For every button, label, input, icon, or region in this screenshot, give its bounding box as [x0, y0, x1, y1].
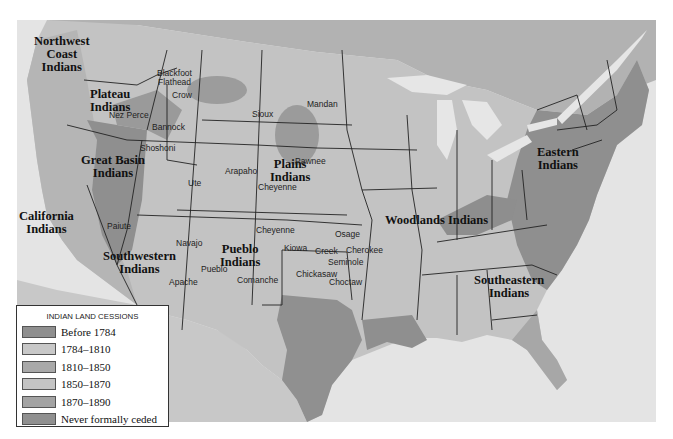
region-label-great-basin: Great BasinIndians — [81, 154, 145, 180]
region-label-southeastern: SoutheasternIndians — [474, 274, 544, 300]
legend-label: 1850–1870 — [61, 378, 111, 390]
tribe-label-seminole: Seminole — [328, 257, 363, 267]
legend-swatch — [22, 343, 56, 355]
legend-label: Never formally ceded — [61, 413, 157, 425]
legend-label: 1870–1890 — [61, 396, 111, 408]
tribe-label-pueblo: Pueblo — [201, 264, 227, 274]
legend-swatch — [22, 413, 56, 425]
region-label-southwestern: SouthwesternIndians — [103, 250, 176, 276]
tribe-label-cheyenne-south: Cheyenne — [256, 225, 295, 235]
legend-label: Before 1784 — [61, 326, 116, 338]
legend-label: 1784–1810 — [61, 343, 111, 355]
tribe-label-kiowa: Kiowa — [284, 243, 307, 253]
region-label-woodlands: Woodlands Indians — [385, 214, 488, 227]
legend-title: INDIAN LAND CESSIONS — [17, 312, 168, 321]
legend: INDIAN LAND CESSIONS Before 1784 1784–18… — [16, 305, 169, 427]
tribe-label-osage: Osage — [335, 229, 360, 239]
legend-label: 1810–1850 — [61, 361, 111, 373]
legend-swatch — [22, 378, 56, 390]
legend-swatch — [22, 361, 56, 373]
legend-item-never-ceded: Never formally ceded — [22, 412, 157, 426]
region-label-california: CaliforniaIndians — [19, 210, 74, 236]
tribe-label-apache: Apache — [169, 277, 198, 287]
tribe-label-flathead: Flathead — [158, 77, 191, 87]
legend-item-1810-1850: 1810–1850 — [22, 360, 111, 374]
tribe-label-cherokee: Cherokee — [346, 245, 383, 255]
legend-item-1784-1810: 1784–1810 — [22, 342, 111, 356]
tribe-label-comanche: Comanche — [237, 275, 278, 285]
tribe-label-pawnee: Pawnee — [295, 156, 326, 166]
tribe-label-mandan: Mandan — [307, 99, 338, 109]
tribe-label-paiute: Paiute — [107, 221, 131, 231]
legend-item-before-1784: Before 1784 — [22, 325, 116, 339]
region-label-northwest-coast: NorthwestCoastIndians — [34, 35, 90, 74]
tribe-label-navajo: Navajo — [176, 238, 202, 248]
tribe-label-cheyenne-north: Cheyenne — [258, 182, 297, 192]
tribe-label-sioux: Sioux — [252, 109, 273, 119]
legend-swatch — [22, 326, 56, 338]
montana-region — [187, 76, 247, 104]
tribe-label-creek: Creek — [315, 246, 338, 256]
tribe-label-arapaho: Arapaho — [225, 166, 257, 176]
legend-item-1850-1870: 1850–1870 — [22, 377, 111, 391]
legend-item-1870-1890: 1870–1890 — [22, 395, 111, 409]
legend-swatch — [22, 396, 56, 408]
tribe-label-crow: Crow — [172, 90, 192, 100]
tribe-label-bannock: Bannock — [152, 122, 185, 132]
region-label-eastern: EasternIndians — [537, 146, 579, 172]
tribe-label-ute: Ute — [188, 178, 201, 188]
tribe-label-choctaw: Choctaw — [329, 277, 362, 287]
tribe-label-shoshoni: Shoshoni — [140, 143, 175, 153]
tribe-label-nez-perce: Nez Perce — [109, 110, 149, 120]
